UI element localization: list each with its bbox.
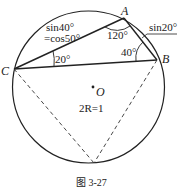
diameter-label: 2R=1: [79, 102, 104, 114]
vertex-label-A: A: [120, 4, 129, 18]
center-dot: [92, 86, 95, 89]
figure-caption: 图 3-27: [76, 177, 107, 188]
triangle-in-circle-diagram: A B C 20° 120° 40° sin40° =cos50° sin20°…: [0, 0, 182, 189]
angle-label-B: 40°: [121, 46, 136, 58]
vertex-label-B: B: [162, 52, 170, 66]
angle-label-A: 120°: [107, 29, 128, 41]
side-label-CA-line2: =cos50°: [44, 32, 80, 44]
center-label-O: O: [96, 85, 105, 99]
side-label-AB: sin20°: [149, 21, 177, 33]
vertex-label-C: C: [1, 64, 10, 78]
angle-arc-B: [136, 42, 143, 61]
angle-label-C: 20°: [55, 53, 70, 65]
dashed-line-C: [14, 69, 94, 163]
side-CB: [14, 60, 157, 69]
